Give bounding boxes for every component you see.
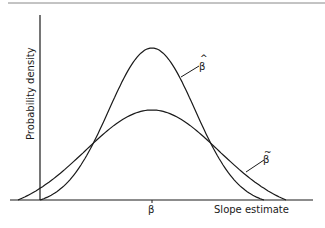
beta-tilde-leader — [246, 160, 264, 172]
beta-tilde-curve — [18, 110, 286, 200]
y-axis-label: Probability density — [25, 47, 36, 140]
beta-hat-curve — [40, 48, 264, 200]
x-tick-label-beta: β — [148, 204, 154, 215]
beta-hat-symbol: β — [199, 61, 205, 72]
beta-hat-leader — [181, 66, 199, 77]
beta-hat-label: ^ β — [199, 54, 209, 78]
beta-tilde-symbol: β — [263, 154, 269, 165]
x-axis-label: Slope estimate — [214, 204, 289, 215]
beta-tilde-label: ~ β — [263, 148, 273, 172]
chart-canvas — [0, 0, 325, 228]
